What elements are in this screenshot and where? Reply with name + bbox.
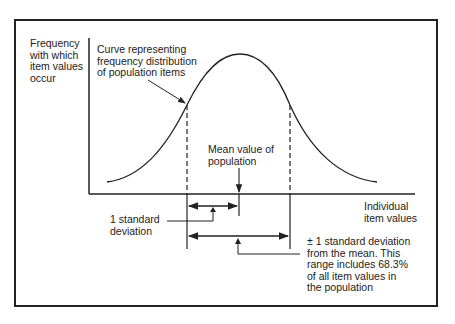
range-leader: [238, 240, 300, 254]
curve-pointer-arrow: [148, 80, 185, 103]
range-label: ± 1 standard deviation from the mean. Th…: [307, 236, 410, 294]
mean-label: Mean value of population: [208, 144, 274, 167]
curve-label: Curve representing frequency distributio…: [97, 44, 197, 79]
x-axis-label: Individual item values: [364, 201, 417, 224]
one-sd-label: 1 standard deviation: [110, 214, 160, 237]
y-axis-label: Frequency with which item values occur: [30, 38, 83, 84]
one-sd-leader: [167, 209, 213, 221]
